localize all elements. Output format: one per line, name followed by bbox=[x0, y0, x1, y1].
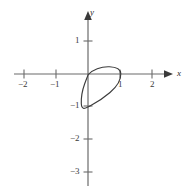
curve-path bbox=[81, 67, 121, 109]
y-tick-label-neg2: −2 bbox=[70, 134, 80, 143]
x-tick-label-pos1: 1 bbox=[118, 80, 123, 89]
x-tick-label-neg2: −2 bbox=[18, 80, 28, 89]
plot-canvas bbox=[0, 0, 190, 191]
y-tick-label-neg1: −1 bbox=[70, 101, 80, 110]
x-axis-arrow-icon bbox=[164, 70, 173, 78]
graph-figure: −2 −1 1 2 1 −1 −2 −3 x y bbox=[0, 0, 190, 191]
x-tick-label-pos2: 2 bbox=[150, 80, 155, 89]
x-tick-label-neg1: −1 bbox=[50, 80, 60, 89]
y-tick-label-pos1: 1 bbox=[75, 36, 80, 45]
y-axis-label: y bbox=[90, 8, 94, 17]
x-axis-label: x bbox=[177, 69, 181, 78]
y-tick-label-neg3: −3 bbox=[70, 167, 80, 176]
